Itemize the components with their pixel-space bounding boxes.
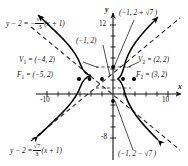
x-axis-label: x [178, 83, 182, 91]
point-covertex-bottom [111, 99, 115, 103]
hyperbola-figure: y − 2 = −√73(x + 1) y − 2 =√73(x + 1) (−… [0, 0, 188, 166]
leader-covertex-top [114, 20, 134, 67]
asymptote-neg-fraction: √73 [35, 16, 44, 31]
vertex-1-equation: = (−4, 2) [28, 56, 55, 64]
asymptote-neg-lhs: y − 2 = − [6, 19, 35, 28]
left-branch [38, 76, 91, 137]
leader-covertex-bottom [115, 101, 133, 150]
asymptote-neg-rhs: (x + 1) [44, 19, 65, 28]
point-vertex-1 [88, 77, 92, 81]
asymptote-neg-denominator: 3 [35, 24, 44, 31]
asymptote-negative-equation-label: y − 2 = −√73(x + 1) [6, 16, 65, 31]
asymptote-pos-lhs: y − 2 = [10, 146, 33, 155]
vertex-2-equation: = (2, 2) [147, 56, 169, 64]
point-vertex-2 [121, 77, 125, 81]
asymptote-lines [31, 18, 180, 150]
vertex-2-label: V2 = (2, 2) [138, 57, 169, 65]
plotted-points [77, 65, 136, 103]
center-label: (−1, 2) [76, 38, 96, 45]
asymptote-positive-equation-label: y − 2 =√73(x + 1) [10, 143, 62, 158]
focus-2-equation: = (3, 2) [145, 71, 167, 79]
right-branch-upper [118, 17, 159, 79]
focus-2-label: F2 = (3, 2) [136, 72, 167, 80]
asymptote-pos-rhs: (x + 1) [41, 146, 62, 155]
covertex-bottom-label: (−1, 2 − √7 ) [118, 151, 156, 158]
leader-vertex1 [83, 62, 98, 68]
point-covertex-top [111, 65, 115, 69]
leader-center [103, 45, 110, 76]
y-tick-label-12: 12 [99, 21, 106, 28]
vertex-1-subscript: 1 [23, 59, 26, 65]
covertex-top-label: (−1, 2 + √7 ) [119, 10, 157, 17]
x-tick-label-10: 10 [162, 97, 169, 104]
focus-2-subscript: 2 [140, 74, 143, 80]
focus-1-label: F1 = (−5, 2) [17, 72, 53, 80]
y-tick-label-neg8: -8 [101, 134, 107, 141]
focus-1-equation: = (−5, 2) [26, 71, 53, 79]
vertex-1-label: V1 = (−4, 2) [19, 57, 55, 65]
y-axis [110, 13, 116, 160]
point-focus-1 [77, 77, 81, 81]
point-center [100, 77, 104, 81]
x-axis [36, 91, 181, 97]
y-axis-label: y [105, 6, 108, 14]
asymptote-negative-slope [31, 27, 180, 150]
focus-1-subscript: 1 [21, 74, 24, 80]
vertex-2-subscript: 2 [142, 59, 145, 65]
x-tick-label-neg10: -10 [40, 97, 50, 104]
